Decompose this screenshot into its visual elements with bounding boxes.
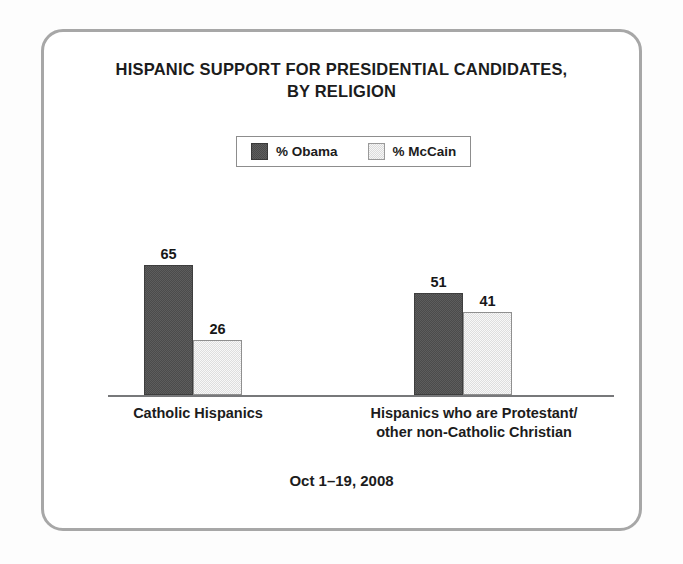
bar-mccain-catholic-hispanics[interactable]: 26	[193, 340, 242, 395]
bar-value-obama-catholic-hispanics: 65	[160, 247, 176, 262]
bar-obama-catholic-hispanics[interactable]: 65	[144, 265, 193, 395]
bar-obama-protestant-hispanics[interactable]: 51	[414, 293, 463, 395]
chart-title-line-2: BY RELIGION	[44, 80, 639, 102]
chart-title-line-1: HISPANIC SUPPORT FOR PRESIDENTIAL CANDID…	[116, 60, 568, 78]
bar-value-mccain-protestant-hispanics: 41	[479, 294, 495, 309]
plot-area: 65 26 51 41	[66, 182, 617, 397]
category-axis-labels: Catholic Hispanics Hispanics who are Pro…	[66, 404, 617, 452]
chart-title: HISPANIC SUPPORT FOR PRESIDENTIAL CANDID…	[44, 58, 639, 102]
legend-item-mccain[interactable]: % McCain	[368, 143, 457, 160]
legend-item-obama[interactable]: % Obama	[251, 143, 338, 160]
chart-screenshot: HISPANIC SUPPORT FOR PRESIDENTIAL CANDID…	[0, 0, 683, 564]
category-label-protestant-hispanics-line-1: Hispanics who are Protestant/	[370, 405, 577, 421]
dark-gray-swatch-icon	[251, 143, 268, 160]
bar-value-mccain-catholic-hispanics: 26	[209, 322, 225, 337]
category-label-protestant-hispanics-line-2: other non-Catholic Christian	[338, 423, 610, 442]
category-label-catholic-hispanics: Catholic Hispanics	[88, 404, 308, 423]
legend-label-obama: % Obama	[276, 144, 338, 159]
category-label-catholic-hispanics-line-1: Catholic Hispanics	[133, 405, 263, 421]
light-gray-swatch-icon	[368, 143, 385, 160]
x-axis-line	[108, 395, 614, 397]
bar-mccain-protestant-hispanics[interactable]: 41	[463, 312, 512, 395]
legend-label-mccain: % McCain	[393, 144, 457, 159]
bar-value-obama-protestant-hispanics: 51	[430, 275, 446, 290]
chart-footnote-date-range: Oct 1–19, 2008	[44, 472, 639, 489]
chart-legend: % Obama % McCain	[236, 136, 471, 167]
category-label-protestant-hispanics: Hispanics who are Protestant/ other non-…	[338, 404, 610, 442]
chart-frame: HISPANIC SUPPORT FOR PRESIDENTIAL CANDID…	[41, 29, 642, 531]
